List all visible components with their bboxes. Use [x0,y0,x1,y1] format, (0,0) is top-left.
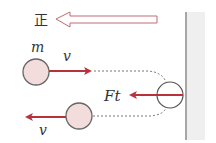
outgoing-path [93,108,166,116]
positive-direction-label: 正 [34,12,48,28]
ball-outgoing [66,103,92,129]
ball-incoming [23,59,49,85]
incoming-path [94,71,166,82]
positive-direction-arrow-icon [56,12,157,27]
incoming-velocity-label: v [63,48,71,64]
impulse-label: Ft [103,87,121,105]
wall-shade [187,12,205,140]
momentum-wall-diagram: 正 m v v Ft [0,0,216,143]
mass-label: m [31,39,44,55]
outgoing-velocity-label: v [39,122,47,138]
diagram-canvas: 正 m v v Ft [0,0,216,143]
